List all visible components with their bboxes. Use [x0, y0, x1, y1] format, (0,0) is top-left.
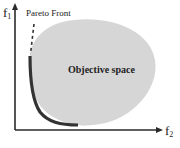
y-axis-label: f1	[3, 6, 11, 21]
y-axis-arrow-icon	[12, 3, 18, 10]
x-axis-label: f2	[165, 124, 173, 139]
x-axis-arrow-icon	[156, 127, 163, 133]
objective-space-label: Objective space	[68, 64, 135, 75]
x-axis-subscript: 2	[169, 130, 173, 139]
y-axis-subscript: 1	[7, 12, 11, 21]
pareto-diagram: f1 f2 Pareto Front Objective space	[0, 0, 180, 148]
pareto-front-label: Pareto Front	[26, 8, 71, 18]
